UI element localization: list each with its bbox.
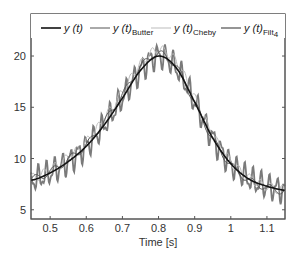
x-tick-label: 0.8: [151, 222, 166, 234]
line-chart: 0.50.60.70.80.911.15101520 y (t)y (t)But…: [0, 0, 299, 264]
x-tick-label: 1: [228, 222, 234, 234]
legend-entry-label: y (t): [63, 22, 83, 34]
plot-area: [31, 14, 285, 219]
x-tick-label: 0.9: [187, 222, 202, 234]
x-axis-label: Time [s]: [139, 236, 178, 248]
legend: y (t)y (t)Buttery (t)Chebyy (t)Filt4: [31, 14, 285, 39]
x-tick-label: 0.5: [43, 222, 58, 234]
y-tick-label: 10: [14, 153, 26, 165]
x-tick-label: 1.1: [259, 222, 274, 234]
y-tick-label: 5: [20, 204, 26, 216]
y-tick-label: 15: [14, 101, 26, 113]
y-tick-label: 20: [14, 50, 26, 62]
x-tick-label: 0.7: [115, 222, 130, 234]
x-tick-label: 0.6: [79, 222, 94, 234]
